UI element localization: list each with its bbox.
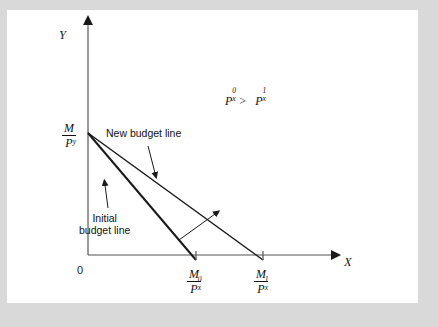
budget-line-plot: [7, 10, 418, 303]
new-budget-line: [88, 133, 263, 260]
x-intercept-new-label: M P1x: [254, 268, 268, 295]
x-intercept-new-denominator: P1x: [254, 283, 268, 295]
y-intercept-numerator: M: [62, 122, 76, 134]
figure-root: Y X 0 M Py M P0x M P1x P0x>P1x New budge…: [0, 0, 438, 327]
y-intercept-denominator: Py: [62, 137, 76, 149]
y-intercept-p: P: [65, 136, 72, 150]
y-axis-label: Y: [59, 28, 66, 42]
initial-budget-line-pointer-icon: [105, 185, 108, 208]
initial-budget-line-annotation-line1: Initial: [79, 213, 130, 225]
x-intercept-new-p: P: [257, 282, 264, 296]
initial-budget-line-annotation: Initial budget line: [79, 213, 130, 237]
figure-panel: Y X 0 M Py M P0x M P1x P0x>P1x New budge…: [7, 10, 418, 303]
x-intercept-initial-p: P: [190, 282, 197, 296]
initial-budget-line-annotation-line2: budget line: [79, 225, 130, 237]
initial-budget-line: [88, 133, 196, 260]
y-intercept-label: M Py: [62, 122, 76, 149]
price-condition-label: P0x>P1x: [225, 94, 262, 109]
origin-label: 0: [77, 264, 83, 276]
x-axis-label: X: [344, 255, 352, 269]
shift-arrow-icon: [179, 214, 215, 240]
x-intercept-initial-label: M P0x: [187, 268, 201, 295]
x-intercept-initial-denominator: P0x: [187, 283, 201, 295]
new-budget-line-pointer-icon: [148, 146, 155, 173]
condition-operator: >: [239, 94, 246, 108]
new-budget-line-annotation: New budget line: [106, 128, 181, 140]
